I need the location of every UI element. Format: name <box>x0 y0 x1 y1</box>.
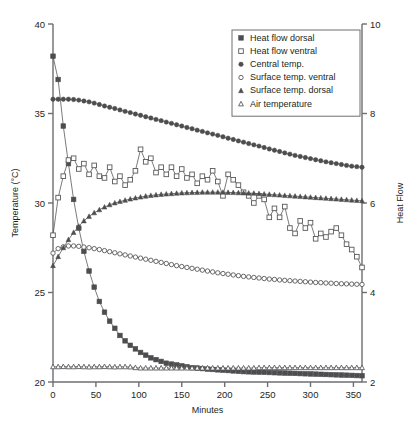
y-axis-left-tick-label: 40 <box>34 19 45 30</box>
marker-filled-circle <box>200 129 204 133</box>
marker-open-circle <box>339 282 343 286</box>
marker-open-square <box>82 161 87 166</box>
marker-filled-square <box>288 371 293 376</box>
marker-open-square <box>319 231 324 236</box>
y-axis-left-tick-label: 25 <box>34 287 45 298</box>
marker-open-square <box>252 201 257 206</box>
marker-filled-square <box>298 371 303 376</box>
marker-filled-circle <box>236 139 240 143</box>
marker-open-circle <box>97 247 101 251</box>
marker-filled-circle <box>138 113 142 117</box>
legend-label: Surface temp. ventral <box>250 72 336 82</box>
marker-open-square <box>236 183 241 188</box>
marker-filled-circle <box>180 124 184 128</box>
marker-filled-circle <box>113 106 117 110</box>
marker-filled-circle <box>190 127 194 131</box>
marker-open-triangle <box>246 365 251 370</box>
marker-filled-circle <box>195 128 199 132</box>
marker-filled-square <box>277 371 282 376</box>
marker-open-circle <box>185 265 189 269</box>
marker-filled-circle <box>262 145 266 149</box>
marker-open-circle <box>252 275 256 279</box>
marker-filled-circle <box>66 97 70 101</box>
marker-open-triangle <box>277 365 282 370</box>
marker-open-circle <box>277 278 281 282</box>
marker-open-triangle <box>138 365 143 370</box>
marker-filled-circle <box>205 131 209 135</box>
marker-open-square <box>216 179 221 184</box>
marker-open-circle <box>334 281 338 285</box>
marker-filled-square <box>308 372 313 377</box>
marker-filled-circle <box>239 62 243 66</box>
marker-open-triangle <box>344 365 349 370</box>
marker-filled-circle <box>334 161 338 165</box>
marker-open-square <box>97 174 102 179</box>
marker-filled-square <box>92 285 97 290</box>
marker-open-triangle <box>154 365 159 370</box>
marker-filled-circle <box>144 115 148 119</box>
marker-open-square <box>118 174 123 179</box>
marker-open-circle <box>308 280 312 284</box>
marker-open-triangle <box>92 364 97 369</box>
marker-filled-circle <box>185 125 189 129</box>
marker-filled-circle <box>324 160 328 164</box>
marker-open-triangle <box>56 364 61 369</box>
marker-open-square <box>195 181 200 186</box>
marker-open-square <box>277 215 282 220</box>
marker-open-triangle <box>102 364 107 369</box>
marker-open-circle <box>71 244 75 248</box>
marker-open-triangle <box>303 365 308 370</box>
marker-open-circle <box>247 275 251 279</box>
marker-filled-circle <box>272 148 276 152</box>
legend-label: Heat flow ventral <box>250 46 317 56</box>
marker-open-circle <box>66 244 70 248</box>
marker-open-square <box>164 172 169 177</box>
marker-open-square <box>308 220 313 225</box>
marker-filled-circle <box>164 120 168 124</box>
marker-open-circle <box>236 273 240 277</box>
marker-open-circle <box>360 282 364 286</box>
marker-open-circle <box>164 261 168 265</box>
marker-filled-square <box>239 36 244 41</box>
marker-filled-circle <box>61 97 65 101</box>
marker-open-square <box>66 158 71 163</box>
marker-open-triangle <box>133 365 138 370</box>
marker-filled-square <box>149 356 154 361</box>
marker-open-square <box>102 176 107 181</box>
marker-open-circle <box>298 279 302 283</box>
marker-open-triangle <box>143 365 148 370</box>
marker-filled-square <box>159 359 164 364</box>
marker-filled-square <box>118 333 123 338</box>
marker-filled-circle <box>216 133 220 137</box>
marker-open-triangle <box>267 365 272 370</box>
x-axis-tick-label: 200 <box>217 389 233 400</box>
marker-open-triangle <box>339 365 344 370</box>
series-air-temperature <box>51 364 365 370</box>
marker-open-square <box>205 177 210 182</box>
marker-filled-square <box>61 124 66 129</box>
marker-filled-square <box>107 319 112 324</box>
y-axis-right-tick-label: 4 <box>370 287 375 298</box>
marker-filled-circle <box>252 143 256 147</box>
marker-open-triangle <box>324 365 329 370</box>
marker-filled-square <box>87 269 92 274</box>
marker-open-triangle <box>51 364 56 369</box>
marker-filled-circle <box>92 101 96 105</box>
marker-filled-circle <box>169 121 173 125</box>
marker-filled-circle <box>293 153 297 157</box>
marker-open-square <box>133 168 138 173</box>
marker-filled-circle <box>149 116 153 120</box>
marker-open-circle <box>303 280 307 284</box>
marker-open-triangle <box>272 365 277 370</box>
marker-open-circle <box>293 279 297 283</box>
marker-open-square <box>61 174 66 179</box>
marker-filled-square <box>262 370 267 375</box>
marker-filled-circle <box>257 144 261 148</box>
marker-open-square <box>288 226 293 231</box>
x-axis-tick-label: 50 <box>91 389 102 400</box>
marker-open-square <box>239 49 244 54</box>
marker-filled-circle <box>51 97 55 101</box>
marker-open-square <box>210 168 215 173</box>
marker-open-square <box>226 172 231 177</box>
marker-open-circle <box>272 277 276 281</box>
